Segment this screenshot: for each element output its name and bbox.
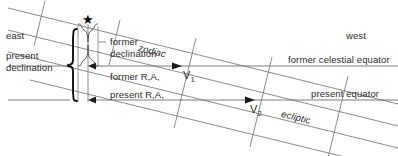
v1-subscript: 1 <box>190 75 194 84</box>
diagram-canvas: east west present declination former dec… <box>0 0 398 156</box>
former-right-ascension-label: former R,A, <box>110 71 160 82</box>
west-label: west <box>346 30 366 41</box>
diagram-vector-layer <box>0 0 398 156</box>
zodiac-tick <box>34 1 45 46</box>
present-declination-label-line2: declination <box>6 62 53 74</box>
present-equator-label: present equator <box>311 88 379 99</box>
present-declination-brace <box>68 29 77 101</box>
present-declination-label-line1: present <box>6 50 38 62</box>
former-declination-label-line1: former <box>110 36 138 48</box>
present-right-ascension-label: present R,A, <box>110 89 164 100</box>
v2-subscript: 2 <box>257 109 261 118</box>
east-label: east <box>6 30 24 41</box>
zodiac-tick <box>261 57 272 102</box>
star-marker: ★ <box>82 14 94 25</box>
zodiac-tick-lower <box>174 83 185 128</box>
v1-label: V1 <box>183 70 195 85</box>
zodiac-band <box>8 8 398 156</box>
zodiac-tick-lower <box>326 121 337 156</box>
v2-label: V2 <box>250 104 262 119</box>
former-celestial-equator-label: former celestial equator <box>288 54 390 65</box>
v1-arrowhead <box>172 63 182 70</box>
